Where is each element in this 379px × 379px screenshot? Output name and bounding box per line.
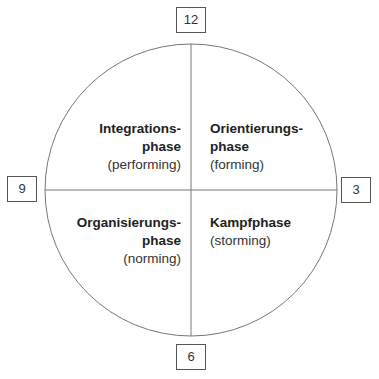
clock-label-9: 9	[7, 176, 37, 202]
quadrant-integration-phase: Integrations- phase (performing)	[99, 120, 181, 174]
quadrant-title-line1: Kampfphase	[210, 214, 291, 232]
clock-label-6: 6	[176, 344, 206, 370]
quadrant-title-line1: Integrations-	[99, 120, 181, 138]
quadrant-subtitle: (performing)	[99, 156, 181, 174]
quadrant-storming-phase: Kampfphase (storming)	[210, 214, 291, 250]
quadrant-organization-phase: Organisierungs- phase (norming)	[77, 214, 181, 268]
clock-label-12: 12	[176, 7, 206, 33]
quadrant-orientation-phase: Orientierungs- phase (forming)	[210, 120, 303, 174]
quadrant-title-line2: phase	[77, 232, 181, 250]
clock-label-3: 3	[341, 177, 371, 203]
quadrant-title-line1: Orientierungs-	[210, 120, 303, 138]
clock-diagram	[0, 0, 379, 379]
quadrant-subtitle: (norming)	[77, 250, 181, 268]
quadrant-title-line1: Organisierungs-	[77, 214, 181, 232]
quadrant-title-line2: phase	[99, 138, 181, 156]
quadrant-subtitle: (forming)	[210, 156, 303, 174]
quadrant-subtitle: (storming)	[210, 232, 291, 250]
quadrant-title-line2: phase	[210, 138, 303, 156]
